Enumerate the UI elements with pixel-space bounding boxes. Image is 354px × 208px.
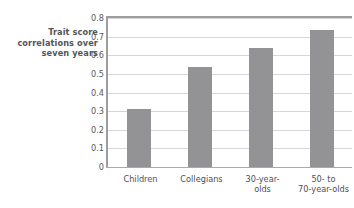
bar-chart: Trait score correlations over seven year… [0,0,354,208]
x-axis-category-label: 50- to70-year-olds [298,174,349,194]
plot-area [106,16,352,168]
y-axis-tick-label: 0.4 [82,88,104,96]
x-axis-line [106,167,352,169]
x-axis-category-label: Collegians [180,174,222,184]
y-axis-tick-label: 0.2 [82,126,104,134]
bars-layer [108,16,352,168]
x-axis-category-label: 30-year-olds [246,174,280,194]
y-axis-tick-label: 0.6 [82,51,104,59]
bar [127,109,151,167]
x-axis-category-label-line: 70-year-olds [298,184,349,194]
bar [188,67,212,167]
x-axis-category-label-line: 30-year- [246,174,280,184]
x-axis-category-label-line: Children [123,174,157,184]
x-axis-category-label-line: olds [246,184,280,194]
x-axis-category-label-line: Collegians [180,174,222,184]
y-axis-tick-label: 0.5 [82,70,104,78]
bar [249,48,273,167]
y-axis-tick-labels: 00.10.20.30.40.50.60.70.8 [82,16,104,168]
x-axis-category-labels: ChildrenCollegians30-year-olds50- to70-y… [108,174,352,206]
y-axis-tick-label: 0 [82,163,104,171]
bar [310,30,334,167]
x-axis-category-label: Children [123,174,157,184]
y-axis-tick-label: 0.3 [82,107,104,115]
y-axis-tick-label: 0.7 [82,33,104,41]
y-axis-tick-label: 0.8 [82,14,104,22]
y-axis-tick-label: 0.1 [82,144,104,152]
x-axis-category-label-line: 50- to [298,174,349,184]
